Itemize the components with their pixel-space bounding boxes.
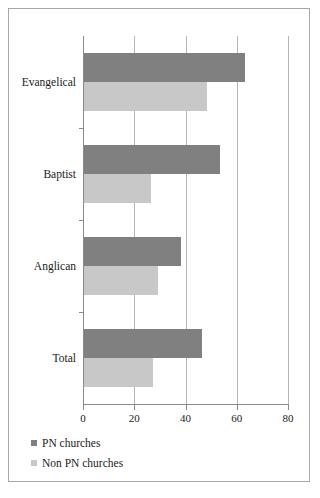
bar-total-non-pn-churches (84, 358, 153, 387)
x-tick (83, 405, 84, 410)
y-tick (79, 312, 84, 313)
bar-evangelical-pn-churches (84, 53, 245, 82)
x-tick (237, 405, 238, 410)
legend-label-pn: PN churches (42, 436, 100, 450)
y-tick (79, 220, 84, 221)
category-label-anglican: Anglican (0, 259, 76, 273)
category-label-evangelical: Evangelical (0, 75, 76, 89)
legend-item-pn-churches: PN churches (31, 433, 123, 453)
bar-evangelical-non-pn-churches (84, 82, 207, 111)
x-tick (288, 405, 289, 410)
bar-total-pn-churches (84, 329, 202, 358)
gridline (237, 36, 238, 404)
bar-anglican-non-pn-churches (84, 266, 158, 295)
chart-figure: 020406080 EvangelicalBaptistAnglicanTota… (8, 8, 310, 482)
y-tick (79, 128, 84, 129)
chart-legend: PN churches Non PN churches (31, 433, 123, 473)
x-tick-label: 80 (268, 411, 308, 425)
category-label-total: Total (0, 351, 76, 365)
gridline (288, 36, 289, 404)
legend-swatch-icon-pn (31, 440, 37, 446)
legend-label-nonpn: Non PN churches (42, 456, 123, 470)
bar-baptist-non-pn-churches (84, 174, 151, 203)
x-tick (134, 405, 135, 410)
bar-anglican-pn-churches (84, 237, 181, 266)
legend-item-non-pn-churches: Non PN churches (31, 453, 123, 473)
bar-baptist-pn-churches (84, 145, 220, 174)
x-tick-label: 40 (166, 411, 206, 425)
legend-swatch-icon-nonpn (31, 460, 37, 466)
x-tick-label: 0 (63, 411, 103, 425)
x-tick-label: 60 (217, 411, 257, 425)
x-tick-label: 20 (114, 411, 154, 425)
category-label-baptist: Baptist (0, 167, 76, 181)
x-tick (186, 405, 187, 410)
